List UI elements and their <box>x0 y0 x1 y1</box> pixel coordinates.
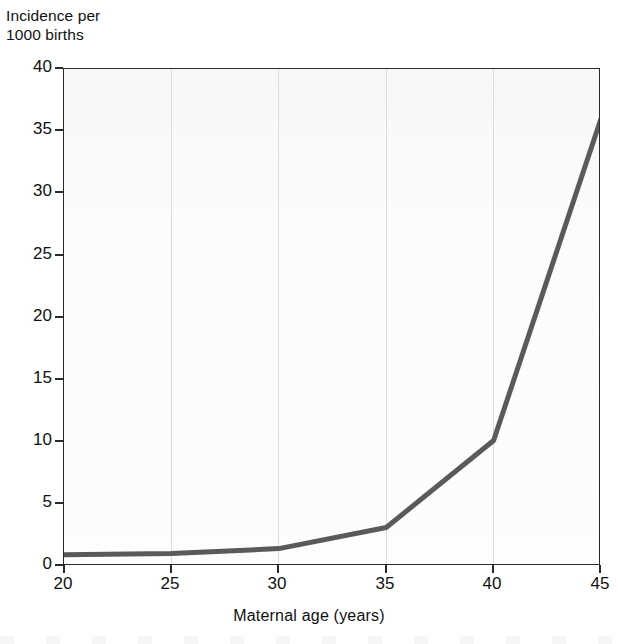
scan-artifact-strip <box>0 636 618 644</box>
y-tick-label-5: 5 <box>0 492 52 512</box>
y-tick-40 <box>55 67 63 69</box>
y-tick-label-15: 15 <box>0 368 52 388</box>
x-axis-title: Maternal age (years) <box>0 607 618 625</box>
y-tick-25 <box>55 254 63 256</box>
plot-area <box>63 68 600 565</box>
y-tick-label-40: 40 <box>0 57 52 77</box>
incidence-line-series <box>64 69 600 565</box>
y-tick-label-20: 20 <box>0 306 52 326</box>
x-tick-label-30: 30 <box>247 574 307 594</box>
y-tick-0 <box>55 564 63 566</box>
x-tick-40 <box>492 565 494 573</box>
y-tick-20 <box>55 316 63 318</box>
y-axis-title: Incidence per 1000 births <box>6 6 100 44</box>
y-tick-label-10: 10 <box>0 430 52 450</box>
x-tick-label-40: 40 <box>462 574 522 594</box>
y-tick-label-0: 0 <box>0 554 52 574</box>
series-polyline <box>64 119 600 555</box>
y-tick-35 <box>55 129 63 131</box>
x-tick-25 <box>170 565 172 573</box>
y-tick-label-25: 25 <box>0 244 52 264</box>
y-tick-label-30: 30 <box>0 181 52 201</box>
x-tick-35 <box>385 565 387 573</box>
x-tick-label-20: 20 <box>33 574 93 594</box>
x-tick-label-45: 45 <box>570 574 618 594</box>
y-tick-30 <box>55 191 63 193</box>
x-tick-30 <box>277 565 279 573</box>
chart-figure: Incidence per 1000 births 40 35 30 25 20… <box>0 0 618 644</box>
y-tick-10 <box>55 440 63 442</box>
x-tick-45 <box>599 565 601 573</box>
x-tick-label-35: 35 <box>355 574 415 594</box>
y-tick-15 <box>55 378 63 380</box>
x-tick-label-25: 25 <box>140 574 200 594</box>
y-tick-5 <box>55 502 63 504</box>
y-tick-label-35: 35 <box>0 119 52 139</box>
x-tick-20 <box>63 565 65 573</box>
